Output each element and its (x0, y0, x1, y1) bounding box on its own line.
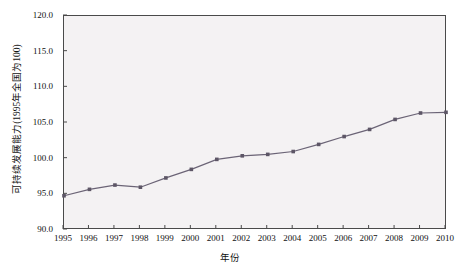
sustainability-index-line-chart: 可持续发展能力(1995年全国为100) 120.0 115.0 110.0 1… (0, 0, 459, 278)
x-tick-label: 2010 (427, 233, 459, 243)
x-axis-title: 年份 (0, 250, 459, 264)
